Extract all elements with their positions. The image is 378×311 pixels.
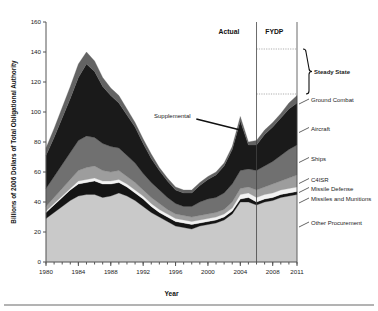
x-tick-label: 1980	[39, 268, 53, 275]
callout-other-procurement-text: Other Procurement	[311, 220, 362, 226]
y-tick-label: 60	[34, 168, 41, 175]
x-tick-label: 1988	[104, 268, 118, 275]
x-tick-label: 2011	[290, 268, 304, 275]
x-tick-label: 2004	[233, 268, 247, 275]
y-tick-label: 0	[38, 258, 42, 265]
chart-figure: 0204060801001201401601980198419881992199…	[0, 0, 378, 311]
x-tick-label: 1984	[72, 268, 86, 275]
x-tick-label: 1992	[136, 268, 150, 275]
callout-aircraft-leader-line	[299, 128, 309, 133]
y-tick-label: 20	[34, 228, 41, 235]
callout-aircraft-text: Aircraft	[311, 126, 330, 132]
callout-missile-defense-text: Missile Defense	[311, 186, 354, 192]
y-tick-label: 80	[34, 138, 41, 145]
callout-ships-text: Ships	[311, 156, 326, 162]
callout-missile-defense-leader-line	[299, 188, 309, 193]
supplemental-label: Supplemental	[154, 113, 191, 119]
callout-c4isr-leader-line	[299, 179, 309, 184]
y-tick-label: 120	[31, 78, 42, 85]
actual-label: Actual	[219, 28, 240, 35]
y-axis-title: Billions of 2006 Dollars of Total Obliga…	[10, 60, 18, 224]
callout-ground-combat-leader-line	[299, 99, 309, 104]
callout-missiles-munitions-text: Missiles and Munitions	[311, 196, 371, 202]
callout-other-procurement-leader-line	[299, 222, 309, 227]
x-axis-title: Year	[165, 290, 179, 297]
y-tick-label: 40	[34, 198, 41, 205]
x-tick-label: 2000	[201, 268, 215, 275]
y-tick-label: 100	[31, 108, 42, 115]
y-tick-label: 160	[31, 18, 42, 25]
callout-ships-leader-line	[299, 158, 309, 163]
x-tick-label: 1996	[169, 268, 183, 275]
callout-ground-combat-text: Ground Combat	[311, 97, 354, 103]
supplemental-leader-line	[196, 119, 240, 130]
steady-state-brace	[303, 49, 312, 94]
callout-missiles-munitions-leader-line	[299, 198, 309, 203]
fydp-label: FYDP	[265, 28, 284, 35]
steady-state-label: Steady State	[314, 69, 351, 75]
callout-c4isr-text: C4ISR	[311, 177, 329, 183]
stacked-area-chart: 0204060801001201401601980198419881992199…	[0, 0, 378, 311]
x-tick-label: 2008	[266, 268, 280, 275]
y-tick-label: 140	[31, 48, 42, 55]
